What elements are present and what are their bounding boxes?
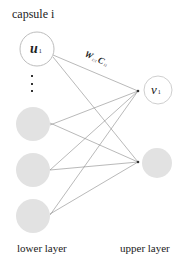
svg-text:W1|1C11: W1|1C11 (83, 49, 110, 68)
edges (50, 55, 138, 215)
upper-layer-label: upper layer (120, 242, 170, 254)
capsule-diagram: capsule i u1 v1 W1|1C11 lower layer uppe… (0, 0, 187, 266)
ellipsis-dots (31, 75, 33, 92)
node-upper-2 (142, 148, 172, 178)
title-capsule-i: capsule i (12, 7, 55, 21)
edge-weight-label: W1|1C11 (83, 49, 110, 68)
lower-layer-nodes (16, 32, 54, 233)
lower-layer-label: lower layer (17, 242, 67, 254)
junction-dot (137, 161, 140, 164)
node-lower-3 (16, 153, 50, 187)
node-lower-2 (16, 107, 50, 141)
junction-dot (137, 90, 140, 93)
node-lower-4 (16, 199, 50, 233)
